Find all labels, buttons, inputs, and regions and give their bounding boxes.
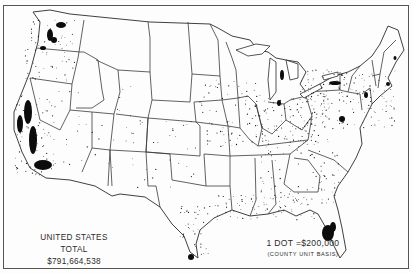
value-dot — [20, 145, 21, 146]
southern-california-concentration — [34, 160, 52, 170]
value-dot — [220, 131, 221, 132]
value-dot — [256, 198, 257, 199]
value-dot — [33, 63, 34, 64]
value-dot — [39, 76, 40, 77]
value-dot — [283, 210, 284, 211]
value-dot — [338, 170, 339, 171]
value-dot — [259, 115, 260, 116]
value-dot — [247, 124, 248, 125]
value-dot — [353, 99, 354, 100]
value-dot — [390, 105, 391, 106]
value-dot — [307, 122, 308, 123]
value-dot — [17, 134, 18, 135]
value-dot — [300, 91, 301, 92]
value-dot — [255, 125, 256, 126]
value-dot — [298, 140, 299, 141]
value-dot — [144, 179, 145, 180]
value-dot — [33, 21, 34, 22]
value-dot — [34, 169, 35, 170]
value-dot — [329, 84, 330, 85]
value-dot — [166, 121, 167, 122]
dot-scale-legend: 1 DOT =$200,000 (COUNTY UNIT BASIS) — [258, 238, 348, 260]
value-dot — [307, 74, 308, 75]
value-dot — [267, 119, 268, 120]
wenatchee-concentration — [51, 37, 57, 43]
value-dot — [55, 163, 56, 164]
value-dot — [265, 140, 266, 141]
value-dot — [273, 198, 274, 199]
columbia-river-concentration — [40, 46, 46, 50]
value-dot — [384, 126, 385, 127]
value-dot — [16, 169, 17, 170]
value-dot — [72, 68, 73, 69]
value-dot — [334, 183, 335, 184]
value-dot — [178, 163, 179, 164]
value-dot — [218, 84, 219, 85]
value-dot — [113, 140, 114, 141]
value-dot — [197, 206, 198, 207]
value-dot — [323, 175, 324, 176]
value-dot — [200, 243, 201, 244]
value-dot — [297, 104, 298, 105]
value-dot — [363, 86, 364, 87]
value-dot — [48, 132, 49, 133]
value-dot — [368, 108, 369, 109]
value-dot — [323, 96, 324, 97]
value-dot — [62, 35, 63, 36]
value-dot — [194, 233, 195, 234]
value-dot — [193, 254, 194, 255]
value-dot — [308, 99, 309, 100]
value-dot — [194, 244, 195, 245]
value-dot — [280, 197, 281, 198]
value-dot — [86, 124, 87, 125]
value-dot — [321, 170, 322, 171]
value-dot — [251, 198, 252, 199]
value-dot — [337, 120, 338, 121]
value-dot — [43, 156, 44, 157]
value-dot — [44, 41, 45, 42]
value-dot — [241, 195, 242, 196]
value-dot — [284, 138, 285, 139]
value-dot — [39, 98, 40, 99]
value-dot — [307, 125, 308, 126]
value-dot — [308, 144, 309, 145]
value-dot — [322, 114, 323, 115]
value-dot — [25, 55, 26, 56]
value-dot — [31, 40, 32, 41]
value-dot — [62, 48, 63, 49]
value-dot — [273, 214, 274, 215]
value-dot — [108, 163, 109, 164]
value-dot — [321, 166, 322, 167]
value-dot — [316, 114, 317, 115]
value-dot — [336, 155, 337, 156]
value-dot — [363, 127, 364, 128]
value-dot — [245, 100, 246, 101]
value-dot — [334, 187, 335, 188]
value-dot — [220, 146, 221, 147]
value-dot — [157, 142, 158, 143]
value-dot — [298, 127, 299, 128]
value-dot — [311, 198, 312, 199]
value-dot — [54, 106, 55, 107]
value-dot — [54, 139, 55, 140]
value-dot — [293, 98, 294, 99]
value-dot — [290, 131, 291, 132]
value-dot — [182, 237, 183, 238]
value-dot — [324, 162, 325, 163]
value-dot — [317, 95, 318, 96]
value-dot — [301, 117, 302, 118]
value-dot — [302, 127, 303, 128]
value-dot — [341, 74, 342, 75]
value-dot — [314, 112, 315, 113]
value-dot — [131, 132, 132, 133]
value-dot — [331, 71, 332, 72]
value-dot — [256, 101, 257, 102]
value-dot — [306, 199, 307, 200]
value-dot — [215, 86, 216, 87]
value-dot — [279, 206, 280, 207]
value-dot — [298, 111, 299, 112]
value-dot — [74, 62, 75, 63]
value-dot — [362, 74, 363, 75]
value-dot — [323, 99, 324, 100]
value-dot — [208, 92, 209, 93]
